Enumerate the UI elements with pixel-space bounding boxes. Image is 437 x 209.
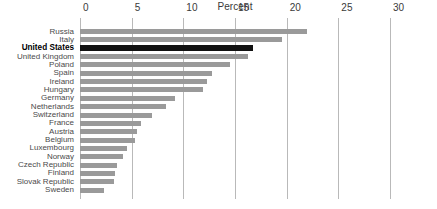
- bar-row: [80, 86, 390, 94]
- bar-row: [80, 112, 390, 120]
- bar-row: [80, 145, 390, 153]
- bar: [80, 163, 117, 168]
- bar: [80, 138, 135, 143]
- bar: [80, 54, 248, 59]
- bar: [80, 29, 307, 34]
- bar-row: [80, 95, 390, 103]
- bar-row: [80, 178, 390, 186]
- bar: [80, 171, 115, 176]
- bar: [80, 104, 166, 109]
- bar-row: [80, 120, 390, 128]
- bar: [80, 129, 137, 134]
- bar-row: [80, 70, 390, 78]
- bar-row: [80, 28, 390, 36]
- bar: [80, 121, 141, 126]
- bar: [80, 87, 203, 92]
- x-tick-label: 25: [338, 2, 352, 13]
- x-tick-label: 10: [183, 2, 197, 13]
- bar: [80, 179, 114, 184]
- category-label: Sweden: [0, 186, 74, 194]
- x-tick-label: 15: [235, 2, 249, 13]
- bar: [80, 71, 212, 76]
- bar-row: [80, 36, 390, 44]
- bar: [80, 96, 175, 101]
- bar-row: [80, 153, 390, 161]
- bar: [80, 188, 104, 193]
- bar-row: [80, 137, 390, 145]
- bar-row: [80, 61, 390, 69]
- gridline-30: [390, 18, 391, 199]
- bar-row: [80, 45, 390, 53]
- x-tick-label: 5: [132, 2, 141, 13]
- bar: [80, 37, 282, 42]
- bar-row: [80, 103, 390, 111]
- bar-chart: Percent RussiaItalyUnited StatesUnited K…: [0, 0, 437, 209]
- bar-row: [80, 78, 390, 86]
- bar-row: [80, 170, 390, 178]
- category-label: United States: [0, 44, 74, 52]
- bar: [80, 154, 123, 159]
- bar-row: [80, 128, 390, 136]
- x-tick-label: 30: [390, 2, 404, 13]
- category-axis-labels: RussiaItalyUnited StatesUnited KingdomPo…: [0, 28, 76, 199]
- bar: [80, 62, 230, 67]
- x-tick-label: 0: [80, 2, 89, 13]
- bar-row: [80, 53, 390, 61]
- bar: [80, 79, 207, 84]
- bar: [80, 146, 127, 151]
- plot-area: 051015202530: [80, 28, 390, 199]
- bar: [80, 45, 253, 51]
- bar-row: [80, 162, 390, 170]
- bar-rows: [80, 28, 390, 199]
- bar: [80, 113, 152, 118]
- bar-row: [80, 187, 390, 195]
- x-tick-label: 20: [287, 2, 301, 13]
